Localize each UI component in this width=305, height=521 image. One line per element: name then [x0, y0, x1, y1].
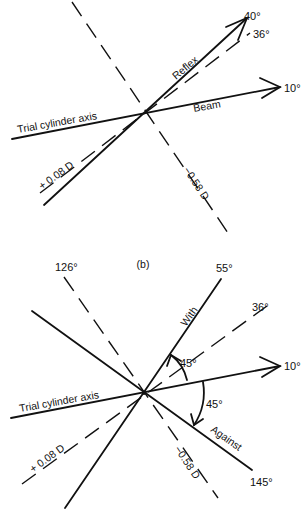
reflex-label: Reflex — [170, 53, 201, 82]
panel-b: 126° 55° 36° 10° 145° 45° 45° With Again… — [11, 261, 301, 508]
against-line — [32, 311, 252, 470]
angle-126-label: 126° — [55, 261, 78, 273]
trial-cylinder-axis-line — [12, 87, 280, 139]
angle-55-label: 55° — [216, 262, 233, 274]
beam-arrowhead-icon — [260, 357, 280, 377]
beam-arrowhead-icon — [260, 78, 280, 98]
plus-power-label: + 0.08 D — [36, 158, 76, 191]
angle-145-label: 145° — [250, 476, 273, 488]
angle-10-label: 10° — [284, 360, 301, 372]
lower-arc-label: 45° — [206, 398, 223, 410]
angle-36-label: 36° — [253, 28, 270, 40]
panel-a: 40° 36° 10° Reflex Beam Trial cylinder a… — [12, 2, 301, 233]
retinoscopy-axis-diagram: 40° 36° 10° Reflex Beam Trial cylinder a… — [0, 0, 305, 521]
minus-power-label: −0.58 D — [172, 443, 203, 481]
panel-caption: (b) — [137, 258, 150, 270]
angle-36-label: 36° — [252, 301, 269, 313]
minus-power-label: −0.58 D — [181, 164, 212, 202]
upper-arc-label: 45° — [180, 357, 197, 369]
trial-cylinder-axis-label: Trial cylinder axis — [18, 388, 100, 414]
center-point — [142, 391, 146, 395]
plus-power-label: + 0.08 D — [27, 441, 67, 474]
angle-10-label: 10° — [284, 82, 301, 94]
diagram-canvas: 40° 36° 10° Reflex Beam Trial cylinder a… — [0, 0, 305, 521]
reflex-line — [44, 18, 247, 205]
beam-label: Beam — [192, 97, 221, 114]
against-label: Against — [209, 423, 245, 453]
angle-40-label: 40° — [244, 10, 261, 22]
